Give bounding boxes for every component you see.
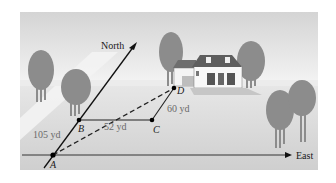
north-label: North	[101, 41, 124, 51]
point-a-label: A	[50, 160, 56, 170]
east-label: East	[296, 151, 313, 161]
point-c	[150, 118, 155, 123]
distance-cd-label: 60 yd	[167, 104, 190, 114]
distance-ab-label: 105 yd	[33, 130, 61, 140]
point-c-label: C	[153, 125, 160, 135]
point-b-label: B	[78, 124, 84, 134]
point-d-label: D	[177, 86, 184, 96]
point-a	[50, 152, 55, 157]
diagram-scene	[0, 0, 336, 183]
point-b	[77, 118, 82, 123]
point-d	[172, 86, 177, 91]
distance-bc-label: 52 yd	[104, 122, 127, 132]
